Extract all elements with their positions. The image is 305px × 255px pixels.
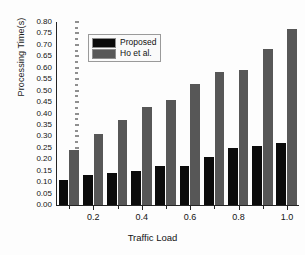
- bar-proposed: [107, 173, 117, 205]
- bar-proposed: [83, 175, 93, 205]
- bar-proposed: [131, 171, 141, 205]
- bar-ho-et-al: [94, 134, 104, 205]
- bar-proposed: [155, 166, 165, 205]
- x-axis-tick-mark: [287, 206, 288, 210]
- legend-swatch-proposed: [92, 38, 116, 48]
- x-axis-tick-label: 0.6: [184, 212, 197, 222]
- y-axis-tick-label: 0.00: [36, 201, 52, 209]
- legend-label-ho-et-al: Ho et al.: [120, 49, 152, 58]
- bar-group: [226, 22, 250, 205]
- x-axis-tick-label: 0.8: [232, 212, 245, 222]
- chart-legend: Proposed Ho et al.: [88, 34, 161, 62]
- bar-group: [178, 22, 202, 205]
- y-axis-tick-label: 0.10: [36, 178, 52, 186]
- x-axis-minor-tick-mark: [118, 206, 119, 209]
- y-axis-tick-label: 0.35: [36, 121, 52, 129]
- y-axis-tick-label: 0.70: [36, 41, 52, 49]
- y-axis-tick-label: 0.60: [36, 64, 52, 72]
- y-axis-tick-label: 0.15: [36, 167, 52, 175]
- bar-ho-et-al: [118, 120, 128, 205]
- processing-time-bar-chart: Processing Time(s) 0.000.050.100.150.200…: [0, 0, 305, 255]
- legend-swatch-ho-et-al: [92, 49, 116, 59]
- bar-proposed: [59, 180, 69, 205]
- bar-ho-et-al: [190, 84, 200, 205]
- x-axis-minor-tick-mark: [166, 206, 167, 209]
- y-axis-tick-label: 0.75: [36, 29, 52, 37]
- bar-proposed: [276, 143, 286, 205]
- x-axis-title: Traffic Load: [0, 232, 305, 243]
- y-axis-tick-labels: 0.000.050.100.150.200.250.300.350.400.45…: [22, 22, 52, 205]
- bar-proposed: [252, 146, 262, 205]
- legend-item: Proposed: [92, 37, 156, 48]
- y-axis-tick-label: 0.30: [36, 132, 52, 140]
- y-axis-tick-label: 0.25: [36, 144, 52, 152]
- y-axis-tick-label: 0.20: [36, 155, 52, 163]
- bar-ho-et-al: [263, 49, 273, 205]
- x-axis-tick-mark: [239, 206, 240, 210]
- x-axis-tick-mark: [93, 206, 94, 210]
- bar-ho-et-al: [215, 72, 225, 205]
- bar-proposed: [204, 157, 214, 205]
- y-axis-tick-label: 0.65: [36, 52, 52, 60]
- legend-item: Ho et al.: [92, 48, 156, 59]
- bar-proposed: [180, 166, 190, 205]
- x-axis-tick-label: 1.0: [281, 212, 294, 222]
- y-axis-tick-label: 0.55: [36, 75, 52, 83]
- bar-proposed: [228, 148, 238, 205]
- bar-ho-et-al: [69, 150, 79, 205]
- bar-ho-et-al: [166, 100, 176, 205]
- legend-label-proposed: Proposed: [120, 38, 156, 47]
- bar-group: [57, 22, 81, 205]
- bar-group: [275, 22, 299, 205]
- bar-ho-et-al: [239, 70, 249, 205]
- y-axis-tick-label: 0.05: [36, 190, 52, 198]
- bar-ho-et-al: [142, 107, 152, 205]
- y-axis-tick-label: 0.45: [36, 98, 52, 106]
- x-axis-minor-tick-mark: [214, 206, 215, 209]
- x-axis-minor-tick-mark: [263, 206, 264, 209]
- y-axis-tick-label: 0.50: [36, 87, 52, 95]
- x-axis-tick-label: 0.4: [135, 212, 148, 222]
- y-axis-tick-label: 0.40: [36, 110, 52, 118]
- y-axis-tick-label: 0.80: [36, 18, 52, 26]
- bar-ho-et-al: [287, 29, 297, 205]
- bar-group: [251, 22, 275, 205]
- x-axis-tick-mark: [142, 206, 143, 210]
- x-axis-tick-label: 0.2: [87, 212, 100, 222]
- x-axis-tick-mark: [190, 206, 191, 210]
- bar-group: [202, 22, 226, 205]
- x-axis-minor-tick-mark: [69, 206, 70, 209]
- x-axis-tick-labels: 0.20.40.60.81.0: [57, 206, 299, 224]
